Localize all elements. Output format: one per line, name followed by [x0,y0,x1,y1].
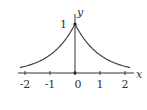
chart: 1 y x -2 -1 0 1 2 [0,0,147,110]
peak-point [73,22,76,25]
x-tick-label: 1 [97,78,104,91]
x-tick-label: 0 [75,78,82,91]
origin-point [74,72,77,75]
y-tick-1: 1 [60,18,67,31]
x-tick-label: 2 [122,78,129,91]
x-tick-label: -1 [45,78,56,91]
x-tick-label: -2 [20,78,31,91]
y-axis-label: y [76,6,84,19]
x-axis-label: x [136,68,143,81]
